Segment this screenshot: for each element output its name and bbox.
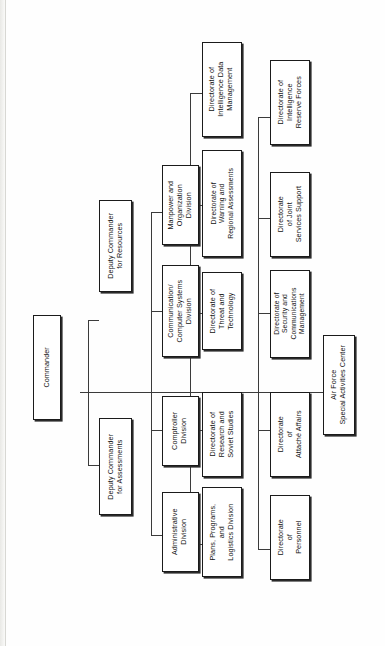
- node-deputy-commander-assessments[interactable]: Deputy Commanderfor Assessments: [99, 418, 132, 515]
- connector-intel-data: [190, 93, 202, 94]
- connector-col4-upper-bus: [258, 117, 259, 392]
- connector-commander-bus: [88, 320, 89, 465]
- node-deputy-commander-assessments-label: Deputy Commanderfor Assessments: [107, 434, 125, 500]
- node-air-force-special-activities-center[interactable]: Air ForceSpecial Activities Center: [323, 335, 355, 435]
- node-plans-programs-logistics-division[interactable]: Plans, Programs,andLogistics Division: [202, 487, 242, 577]
- node-comptroller-division-label: ComptrollerDivision: [172, 412, 190, 450]
- node-directorate-warning-regional-assessments[interactable]: Directorate ofWarning andRegional Assess…: [202, 150, 242, 257]
- node-directorate-research-soviet-studies[interactable]: Directorate ofResearch andSoviet Studies: [202, 392, 242, 477]
- connector-joint-services: [258, 218, 270, 219]
- node-directorate-intelligence-reserve-forces[interactable]: Directorate ofIntelligenceReserve Forces: [270, 60, 310, 145]
- connector-asm-col2-bus: [151, 392, 152, 535]
- connector-manpower: [151, 212, 162, 213]
- node-directorate-intelligence-data-management-label: Directorate ofIntelligence DataManagemen…: [209, 62, 235, 117]
- node-manpower-organization-division-label: Manpower andOrganizationDivision: [167, 181, 193, 230]
- node-directorate-attache-affairs-label: DirectorateofAttaché Affairs: [277, 411, 303, 459]
- node-directorate-joint-services-support[interactable]: Directorateof JointServices Support: [270, 172, 310, 257]
- node-directorate-threat-technology[interactable]: Directorate ofThreat andTechnology: [202, 272, 242, 350]
- node-directorate-personnel-label: DirectorateofPersonnel: [277, 519, 303, 555]
- node-communication-computer-systems-division-label: Communication/Computer SystemsDivision: [167, 280, 193, 343]
- connector-personnel: [258, 549, 270, 550]
- connector-intel-reserve: [258, 117, 270, 118]
- connector-deputy-assessments: [88, 465, 99, 466]
- node-commander[interactable]: Commander: [33, 315, 61, 420]
- node-directorate-research-soviet-studies-label: Directorate ofResearch andSoviet Studies: [209, 411, 235, 458]
- node-plans-programs-logistics-division-label: Plans, Programs,andLogistics Division: [209, 504, 235, 561]
- node-deputy-commander-resources-label: Deputy Commanderfor Resources: [107, 213, 125, 279]
- connector-deputy-resources: [88, 320, 99, 321]
- node-directorate-intelligence-reserve-forces-label: Directorate ofIntelligenceReserve Forces: [277, 76, 303, 128]
- connector-res-col2-bus: [151, 212, 152, 392]
- node-commander-label: Commander: [43, 347, 52, 387]
- node-administrative-division[interactable]: AdministrativeDivision: [162, 492, 199, 572]
- node-directorate-warning-regional-assessments-label: Directorate ofWarning andRegional Assess…: [210, 168, 235, 239]
- org-chart-page: Commander Deputy Commanderfor Resources …: [0, 0, 385, 646]
- node-air-force-special-activities-center-label: Air ForceSpecial Activities Center: [330, 345, 348, 425]
- node-directorate-intelligence-data-management[interactable]: Directorate ofIntelligence DataManagemen…: [202, 42, 242, 137]
- node-directorate-attache-affairs[interactable]: DirectorateofAttaché Affairs: [270, 392, 310, 477]
- node-comptroller-division[interactable]: ComptrollerDivision: [162, 396, 199, 466]
- connector-administrative: [151, 535, 162, 536]
- connector-attache: [258, 430, 270, 431]
- node-directorate-threat-technology-label: Directorate ofThreat andTechnology: [209, 289, 235, 334]
- node-directorate-security-communications-management-label: Directorate ofSecurity andCommunications…: [273, 288, 306, 340]
- node-manpower-organization-division[interactable]: Manpower andOrganizationDivision: [162, 165, 199, 245]
- connector-communication: [151, 311, 162, 312]
- node-communication-computer-systems-division[interactable]: Communication/Computer SystemsDivision: [162, 265, 199, 357]
- node-directorate-joint-services-support-label: Directorateof JointServices Support: [277, 186, 303, 242]
- node-directorate-security-communications-management[interactable]: Directorate ofSecurity andCommunications…: [270, 270, 310, 358]
- node-administrative-division-label: AdministrativeDivision: [172, 509, 190, 556]
- connector-col4-lower-bus: [258, 392, 259, 549]
- node-directorate-personnel[interactable]: DirectorateofPersonnel: [270, 495, 310, 580]
- node-deputy-commander-resources[interactable]: Deputy Commanderfor Resources: [99, 200, 132, 292]
- connector-comptroller: [151, 430, 162, 431]
- connector-security: [258, 313, 270, 314]
- scan-page-edge-line: [5, 0, 6, 646]
